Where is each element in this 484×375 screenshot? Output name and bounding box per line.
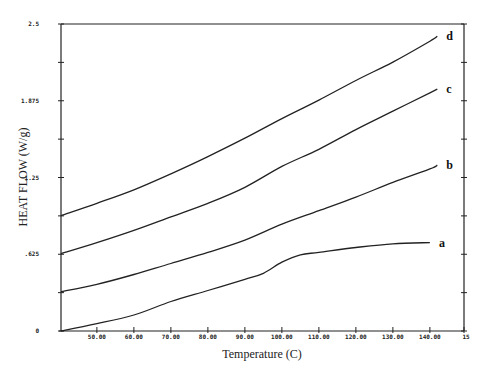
x-tick-label: 50.00 — [88, 333, 106, 340]
y-tick-label: .625 — [25, 250, 40, 257]
curve-label-c: c — [446, 82, 452, 96]
y-axis-title: HEAT FLOW (W/g) — [16, 128, 30, 227]
x-tick-label: 110.00 — [308, 333, 330, 340]
data-curves — [61, 36, 437, 331]
curve-label-d: d — [446, 29, 453, 43]
curve-labels: abcd — [439, 29, 453, 249]
y-tick-label: 1.875 — [21, 97, 39, 104]
x-tick-label: 100.00 — [271, 333, 293, 340]
x-tick-label: 140.00 — [419, 333, 441, 340]
curve-d — [61, 36, 437, 215]
x-tick-label: 15 — [462, 333, 470, 340]
x-tick-label: 90.00 — [236, 333, 254, 340]
curve-b — [61, 165, 437, 292]
x-tick-label: 80.00 — [199, 333, 217, 340]
y-tick-label: 0 — [35, 327, 39, 334]
y-tick-label: 2.5 — [28, 20, 39, 27]
x-axis-title: Temperature (C) — [222, 347, 301, 361]
x-tick-label: 130.00 — [382, 333, 404, 340]
curve-label-a: a — [439, 236, 445, 250]
curve-a — [61, 243, 430, 331]
curve-label-b: b — [446, 158, 453, 172]
x-tick-label: 120.00 — [345, 333, 367, 340]
curve-c — [61, 89, 437, 254]
x-tick-label: 60.00 — [125, 333, 143, 340]
x-axis-ticks: 50.0060.0070.0080.0090.00100.00110.00120… — [88, 327, 470, 340]
x-tick-label: 70.00 — [162, 333, 180, 340]
heat-flow-chart: 0.6251.251.8752.5 50.0060.0070.0080.0090… — [0, 0, 484, 375]
